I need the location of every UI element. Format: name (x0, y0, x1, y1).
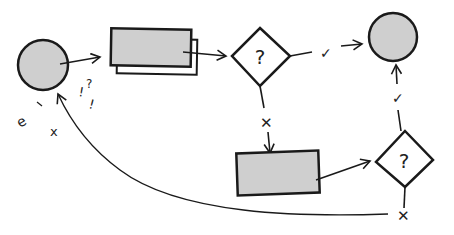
decision-node-1: ? (232, 28, 290, 86)
edge-decision1-end-arrow (341, 44, 362, 46)
svg-text:!: ! (87, 96, 96, 112)
edge-decision1-process2 (260, 86, 264, 108)
x-label-1: ✕ (260, 114, 273, 132)
svg-text:x: x (50, 124, 58, 139)
edge-decision1-process2-arrow (268, 132, 270, 153)
check-label-2: ✓ (392, 90, 404, 106)
x-label-2: ✕ (397, 207, 410, 225)
svg-text:?: ? (86, 77, 92, 91)
edge-decision1-end (290, 52, 312, 56)
decision-2-label: ? (399, 149, 410, 173)
end-node (369, 13, 417, 61)
process-node-2 (236, 151, 319, 196)
check-label-1: ✓ (320, 45, 332, 61)
flowchart-canvas: ? ✓ ✕ ? ✓ ✕ ! ? ! e x (0, 0, 454, 235)
svg-text:!: ! (77, 84, 85, 100)
edge-decision2-end-arrow (396, 65, 397, 84)
edge-process2-decision2 (316, 161, 370, 180)
edge-decision2-start-curve (58, 94, 388, 215)
decision-node-2: ? (376, 131, 433, 187)
start-node (18, 40, 68, 90)
decision-1-label: ? (255, 45, 266, 69)
edge-decision2-end (398, 110, 401, 131)
edge-decision2-start (404, 187, 405, 208)
svg-text:e: e (14, 112, 29, 130)
